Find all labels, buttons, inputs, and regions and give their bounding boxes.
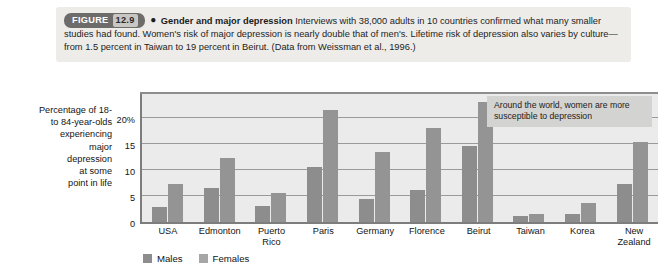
bar-males[interactable] [513, 216, 528, 222]
bar-females[interactable] [168, 184, 183, 222]
figure-body-text: Interviews with 38,000 adults in 10 coun… [64, 16, 618, 52]
x-tick-label: Korea [556, 226, 608, 249]
bar-females[interactable] [633, 142, 648, 222]
y-tick-label: 20% [117, 115, 135, 125]
y-axis-title-line: Percentage of 18- [8, 104, 112, 116]
bar-males[interactable] [462, 146, 477, 222]
bar-females[interactable] [220, 158, 235, 222]
x-axis-line [140, 222, 658, 224]
bar-females[interactable] [375, 152, 390, 222]
bar-males[interactable] [255, 206, 270, 222]
x-tick-label-line: Korea [556, 226, 608, 237]
bar-males[interactable] [565, 214, 580, 222]
x-tick-label: NewZealand [608, 226, 660, 249]
x-tick-label-line: Taiwan [505, 226, 557, 237]
chart-legend: MalesFemales [143, 253, 249, 264]
bar-females[interactable] [323, 110, 338, 222]
legend-label: Females [213, 253, 250, 264]
figure-caption-text: FIGURE12.9 ● Gender and major depression… [64, 13, 621, 55]
y-axis-title-line: to 84-year-olds [8, 116, 112, 128]
x-tick-label-line: Zealand [608, 237, 660, 248]
bar-females[interactable] [271, 193, 286, 222]
x-tick-label: Beirut [453, 226, 505, 249]
x-tick-label: Florence [401, 226, 453, 249]
x-tick-label-line: New [608, 226, 660, 237]
x-tick-label: Edmonton [194, 226, 246, 249]
bar-group [297, 94, 349, 222]
x-tick-label-line: Paris [297, 226, 349, 237]
legend-item-females[interactable]: Females [199, 253, 250, 264]
bar-males[interactable] [410, 190, 425, 222]
bar-group [348, 94, 400, 222]
figure-title: Gender and major depression [161, 16, 293, 26]
bar-group [400, 94, 452, 222]
bar-males[interactable] [359, 199, 374, 222]
x-tick-label: PuertoRico [246, 226, 298, 249]
y-axis-title-line: experiencing [8, 128, 112, 140]
x-tick-label-line: Puerto [246, 226, 298, 237]
x-tick-label: Paris [297, 226, 349, 249]
bar-males[interactable] [152, 207, 167, 222]
y-axis-title: Percentage of 18-to 84-year-oldsexperien… [8, 104, 112, 189]
x-tick-label-line: USA [142, 226, 194, 237]
y-axis-title-line: depression [8, 153, 112, 165]
legend-swatch-icon [143, 254, 152, 263]
bar-females[interactable] [426, 128, 441, 222]
x-tick-label-line: Germany [349, 226, 401, 237]
x-tick-label-line: Florence [401, 226, 453, 237]
x-tick-label: Taiwan [505, 226, 557, 249]
x-tick-label-line: Rico [246, 237, 298, 248]
caption-bullet: ● [150, 14, 156, 25]
callout-annotation: Around the world, women are more suscept… [487, 96, 652, 127]
x-tick-label-line: Beirut [453, 226, 505, 237]
x-tick-label: Germany [349, 226, 401, 249]
figure-number-badge: FIGURE12.9 [64, 13, 145, 28]
legend-swatch-icon [199, 254, 208, 263]
y-axis-title-line: point in life [8, 177, 112, 189]
y-axis-title-line: major [8, 141, 112, 153]
bar-males[interactable] [204, 188, 219, 222]
x-tick-label: USA [142, 226, 194, 249]
bar-group [142, 94, 194, 222]
bar-group [245, 94, 297, 222]
y-axis-title-line: at some [8, 165, 112, 177]
bar-group [194, 94, 246, 222]
bar-females[interactable] [529, 214, 544, 222]
y-axis-tick-labels: 20%151050 [108, 88, 138, 224]
y-tick-label: 10 [125, 167, 135, 177]
figure-badge-label: FIGURE [72, 15, 109, 25]
y-tick-label: 0 [130, 219, 135, 229]
bar-males[interactable] [617, 184, 632, 222]
figure-caption-block: FIGURE12.9 ● Gender and major depression… [56, 7, 631, 62]
y-tick-label: 5 [130, 193, 135, 203]
figure-number: 12.9 [113, 14, 138, 27]
legend-item-males[interactable]: Males [143, 253, 183, 264]
x-tick-label-line: Edmonton [194, 226, 246, 237]
y-tick-label: 15 [125, 141, 135, 151]
bar-males[interactable] [307, 167, 322, 222]
chart-container: Percentage of 18-to 84-year-oldsexperien… [0, 88, 667, 278]
bar-females[interactable] [581, 203, 596, 222]
legend-label: Males [157, 253, 183, 264]
x-axis-category-labels: USAEdmontonPuertoRicoParisGermanyFlorenc… [142, 226, 660, 249]
